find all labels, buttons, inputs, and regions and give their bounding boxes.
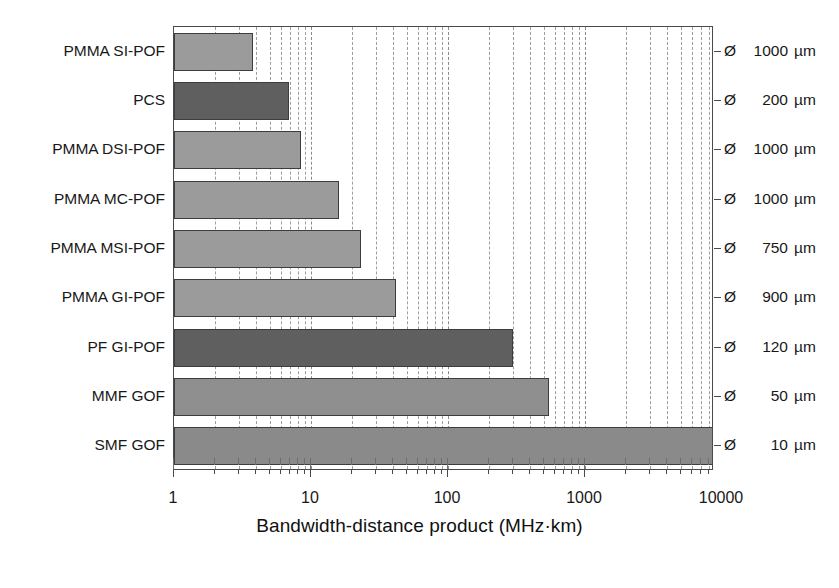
bar-row [174,230,713,268]
x-tick-minor [406,470,407,474]
x-tick-major [447,470,448,477]
x-tick-minor [700,470,701,474]
diameter-unit: µm [788,386,816,406]
bar-row [174,329,713,367]
diameter-unit: µm [788,238,816,258]
x-tick-inner-minor [691,458,692,465]
x-tick-minor [426,470,427,474]
x-tick-minor [269,470,270,474]
x-tick-inner-minor [238,458,239,465]
x-tick-label: 100 [402,488,492,508]
x-tick-inner-major [584,458,585,469]
x-tick-inner-minor [214,458,215,465]
diameter-value: 200 [740,90,788,110]
x-tick-inner-minor [434,458,435,465]
bar-pmma-si-pof [174,33,253,71]
axis-tick-right [714,51,721,52]
x-tick-minor [649,470,650,474]
x-tick-label: 10 [265,488,355,508]
x-tick-inner-minor [297,458,298,465]
diameter-symbol-icon: Ø [724,189,740,209]
x-tick-minor [434,470,435,474]
x-tick-inner-minor [700,458,701,465]
axis-tick-right [714,248,721,249]
x-tick-inner-minor [255,458,256,465]
diameter-label: Ø200µm [724,90,816,110]
x-tick-major [310,470,311,477]
x-tick-minor [351,470,352,474]
x-tick-minor [304,470,305,474]
x-tick-minor [214,470,215,474]
diameter-unit: µm [788,139,816,159]
diameter-symbol-icon: Ø [724,238,740,258]
x-tick-major [173,470,174,477]
bar-row [174,181,713,219]
diameter-value: 900 [740,287,788,307]
axis-tick-right [714,149,721,150]
diameter-value: 1000 [740,189,788,209]
x-tick-inner-minor [625,458,626,465]
diameter-unit: µm [788,41,816,61]
x-tick-inner-minor [680,458,681,465]
x-tick-inner-minor [280,458,281,465]
diameter-symbol-icon: Ø [724,435,740,455]
x-tick-inner-minor [554,458,555,465]
diameter-symbol-icon: Ø [724,139,740,159]
x-tick-minor [543,470,544,474]
x-tick-inner-minor [488,458,489,465]
x-tick-label: 1 [128,488,218,508]
x-tick-inner-minor [529,458,530,465]
x-tick-inner-minor [304,458,305,465]
bar-pmma-gi-pof [174,279,396,317]
diameter-label: Ø1000µm [724,189,816,209]
x-tick-minor [691,470,692,474]
x-tick-minor [554,470,555,474]
x-tick-inner-minor [289,458,290,465]
bar-mmf-gof [174,378,549,416]
x-tick-inner-minor [512,458,513,465]
bar-chart: PMMA SI-POFPCSPMMA DSI-POFPMMA MC-POFPMM… [0,0,839,588]
diameter-unit: µm [788,189,816,209]
x-tick-inner-minor [578,458,579,465]
diameter-label: Ø10µm [724,435,816,455]
bar-pmma-dsi-pof [174,131,301,169]
x-tick-inner-minor [375,458,376,465]
bar-row [174,33,713,71]
bar-row [174,131,713,169]
diameter-value: 10 [740,435,788,455]
x-tick-minor [488,470,489,474]
x-tick-inner-minor [351,458,352,465]
diameter-unit: µm [788,435,816,455]
x-tick-minor [578,470,579,474]
x-tick-inner-major [447,458,448,469]
axis-tick-right [714,347,721,348]
x-tick-minor [392,470,393,474]
x-tick-major [584,470,585,477]
x-tick-inner-minor [392,458,393,465]
x-tick-minor [255,470,256,474]
diameter-symbol-icon: Ø [724,90,740,110]
x-tick-inner-major [173,458,174,469]
x-tick-inner-minor [406,458,407,465]
x-tick-minor [680,470,681,474]
x-tick-minor [238,470,239,474]
x-tick-minor [666,470,667,474]
x-tick-minor [563,470,564,474]
x-axis-title: Bandwidth-distance product (MHz·km) [0,515,839,537]
x-tick-minor [417,470,418,474]
axis-tick-right [714,297,721,298]
bar-pcs [174,82,289,120]
x-tick-minor [280,470,281,474]
diameter-symbol-icon: Ø [724,386,740,406]
category-label: PMMA MSI-POF [0,238,165,258]
diameter-label: Ø1000µm [724,139,816,159]
diameter-symbol-icon: Ø [724,287,740,307]
x-tick-label: 1000 [539,488,629,508]
diameter-label: Ø750µm [724,238,816,258]
diameter-value: 120 [740,337,788,357]
category-label: MMF GOF [0,386,165,406]
x-tick-minor [625,470,626,474]
x-tick-minor [529,470,530,474]
bar-row [174,279,713,317]
x-tick-label: 10000 [676,488,766,508]
